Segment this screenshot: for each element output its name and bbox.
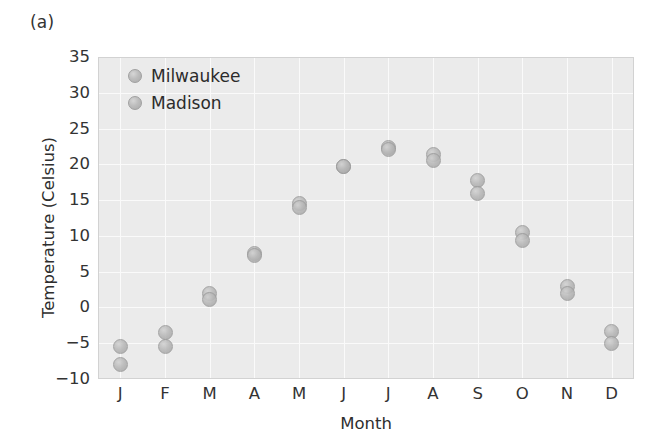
gridline-vertical: [344, 57, 345, 379]
y-tick-label: 5: [30, 264, 90, 281]
gridline-vertical: [433, 57, 434, 379]
y-tick-label: 0: [30, 299, 90, 316]
y-tick-label: 20: [30, 156, 90, 173]
legend-item-milwaukee[interactable]: Milwaukee: [128, 62, 308, 89]
y-tick-label: −5: [30, 335, 90, 352]
data-point-marker: [113, 357, 128, 372]
x-tick-label: J: [368, 384, 408, 403]
gridline-vertical: [522, 57, 523, 379]
data-point-marker: [470, 186, 485, 201]
y-tick-label: 25: [30, 121, 90, 138]
x-tick-label: N: [547, 384, 587, 403]
x-tick-label: A: [234, 384, 274, 403]
data-point-marker: [381, 142, 396, 157]
legend-item-madison[interactable]: Madison: [128, 89, 308, 116]
y-tick-label: 15: [30, 192, 90, 209]
data-point-marker: [247, 248, 262, 263]
x-axis-title: Month: [98, 414, 634, 433]
legend-label: Madison: [151, 93, 222, 113]
circle-marker-icon: [128, 69, 142, 83]
x-axis-ticks: JFMAMJJASOND: [98, 384, 634, 410]
y-tick-label: 30: [30, 85, 90, 102]
y-tick-label: 10: [30, 228, 90, 245]
gridline-horizontal: [98, 236, 634, 237]
y-tick-label: 35: [30, 49, 90, 66]
gridline-horizontal: [98, 57, 634, 58]
data-point-marker: [336, 159, 351, 174]
y-axis-ticks: 35302520151050−5−10: [22, 0, 90, 448]
data-point-marker: [560, 286, 575, 301]
x-tick-label: M: [190, 384, 230, 403]
data-point-marker: [113, 339, 128, 354]
gridline-horizontal: [98, 343, 634, 344]
data-point-marker: [158, 339, 173, 354]
data-point-marker: [515, 233, 530, 248]
x-tick-label: A: [413, 384, 453, 403]
gridline-horizontal: [98, 307, 634, 308]
gridline-horizontal: [98, 272, 634, 273]
y-tick-label: −10: [30, 371, 90, 388]
scatter-chart-figure: (a) Temperature (Celsius) 35302520151050…: [0, 0, 657, 448]
circle-marker-icon: [128, 96, 142, 110]
gridline-vertical: [388, 57, 389, 379]
gridline-vertical: [478, 57, 479, 379]
legend: Milwaukee Madison: [128, 62, 308, 116]
x-tick-label: D: [592, 384, 632, 403]
data-point-marker: [426, 153, 441, 168]
x-tick-label: J: [100, 384, 140, 403]
data-point-marker: [158, 325, 173, 340]
x-tick-label: J: [324, 384, 364, 403]
gridline-horizontal: [98, 129, 634, 130]
data-point-marker: [202, 292, 217, 307]
gridline-vertical: [120, 57, 121, 379]
data-point-marker: [292, 200, 307, 215]
gridline-horizontal: [98, 164, 634, 165]
data-point-marker: [604, 336, 619, 351]
gridline-vertical: [567, 57, 568, 379]
x-tick-label: F: [145, 384, 185, 403]
x-tick-label: O: [502, 384, 542, 403]
x-tick-label: S: [458, 384, 498, 403]
legend-label: Milwaukee: [151, 66, 240, 86]
gridline-horizontal: [98, 200, 634, 201]
x-tick-label: M: [279, 384, 319, 403]
